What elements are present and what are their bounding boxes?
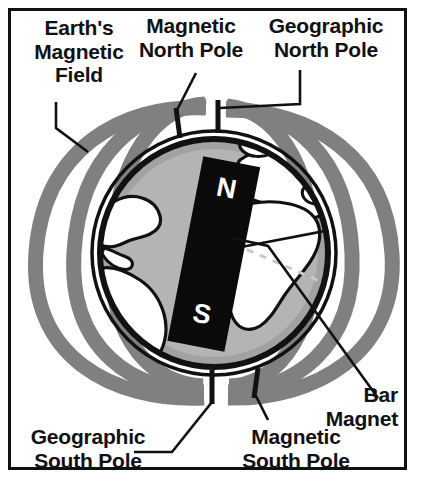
magnetic-field-figure: N S	[0, 0, 423, 486]
figure-border-frame	[8, 8, 407, 470]
